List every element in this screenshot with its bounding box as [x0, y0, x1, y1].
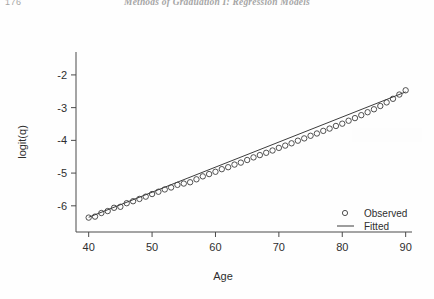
x-tick-label: 80 [336, 241, 348, 253]
legend-label-fitted: Fitted [364, 221, 389, 232]
data-point [194, 177, 199, 182]
data-point [333, 123, 338, 128]
observed-points-series [86, 88, 408, 221]
fitted-regression-line [89, 92, 406, 217]
data-point [206, 171, 211, 176]
x-tick-label: 60 [209, 241, 221, 253]
y-tick-label: -3 [57, 102, 67, 114]
legend-marker-observed [342, 210, 347, 215]
x-tick-label: 50 [146, 241, 158, 253]
data-point [371, 107, 376, 112]
data-point [283, 143, 288, 148]
data-point [327, 126, 332, 131]
y-tick-label: -4 [57, 134, 67, 146]
running-head: 176 Methods of Graduation I: Regression … [0, 0, 434, 9]
data-point [181, 181, 186, 186]
y-tick-label: -2 [57, 69, 67, 81]
y-tick-label: -6 [57, 200, 67, 212]
data-point [295, 138, 300, 143]
data-point [302, 136, 307, 141]
data-point [251, 155, 256, 160]
x-axis-tick-labels: 405060708090 [83, 241, 412, 253]
data-point [219, 166, 224, 171]
data-point [187, 180, 192, 185]
fitted-line-series [89, 92, 406, 217]
data-point [213, 169, 218, 174]
data-point [257, 152, 262, 157]
data-point [105, 208, 110, 213]
data-point [175, 182, 180, 187]
y-axis-title: logit(q) [16, 125, 28, 159]
x-tick-label: 90 [400, 241, 412, 253]
data-point [270, 148, 275, 153]
logit-q-vs-age-scatter-plot: -2-3-4-5-6 405060708090 Observed Fitted … [0, 14, 434, 299]
data-point [314, 131, 319, 136]
data-point [86, 215, 91, 220]
data-point [352, 115, 357, 120]
x-axis: 405060708090 [76, 232, 412, 253]
data-point [263, 150, 268, 155]
y-axis-tick-labels: -2-3-4-5-6 [57, 69, 67, 212]
data-point [225, 165, 230, 170]
data-point [244, 157, 249, 162]
legend-label-observed: Observed [364, 208, 407, 219]
y-tick-label: -5 [57, 167, 67, 179]
y-axis: -2-3-4-5-6 [57, 52, 76, 232]
data-point [232, 162, 237, 167]
data-point [378, 103, 383, 108]
data-point [308, 133, 313, 138]
data-point [200, 174, 205, 179]
data-point [276, 145, 281, 150]
data-point [238, 160, 243, 165]
data-point [168, 185, 173, 190]
book-page: 176 Methods of Graduation I: Regression … [0, 0, 434, 299]
data-point [321, 128, 326, 133]
y-axis-ticks [71, 75, 76, 206]
x-axis-title: Age [213, 270, 233, 282]
data-point [289, 141, 294, 146]
running-head-title: Methods of Graduation I: Regression Mode… [0, 0, 434, 7]
chart-legend: Observed Fitted [337, 208, 407, 232]
data-point [359, 112, 364, 117]
data-point [346, 118, 351, 123]
x-axis-ticks [89, 232, 406, 237]
data-point [365, 110, 370, 115]
data-point [340, 121, 345, 126]
chart-figure: -2-3-4-5-6 405060708090 Observed Fitted … [0, 14, 434, 299]
x-tick-label: 40 [83, 241, 95, 253]
x-tick-label: 70 [273, 241, 285, 253]
data-point [384, 100, 389, 105]
